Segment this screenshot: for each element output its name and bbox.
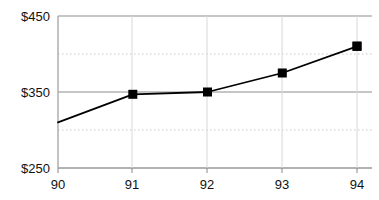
data-point-91[interactable] (203, 88, 212, 97)
y-tick-label-250: $250 (21, 161, 50, 176)
x-tick-label-92: 92 (200, 177, 214, 192)
chart-canvas: $450 $350 $250 90 91 92 93 94 (0, 0, 379, 200)
data-point-92[interactable] (278, 69, 287, 78)
x-tick-label-91: 91 (125, 177, 139, 192)
chart-background (0, 0, 379, 200)
data-point-94[interactable] (353, 42, 362, 51)
line-chart: $450 $350 $250 90 91 92 93 94 (0, 0, 379, 200)
x-tick-label-90: 90 (51, 177, 65, 192)
data-point-90[interactable] (128, 90, 137, 99)
x-tick-label-94: 94 (350, 177, 364, 192)
y-tick-label-450: $450 (21, 9, 50, 24)
y-tick-label-350: $350 (21, 85, 50, 100)
x-tick-label-93: 93 (275, 177, 289, 192)
